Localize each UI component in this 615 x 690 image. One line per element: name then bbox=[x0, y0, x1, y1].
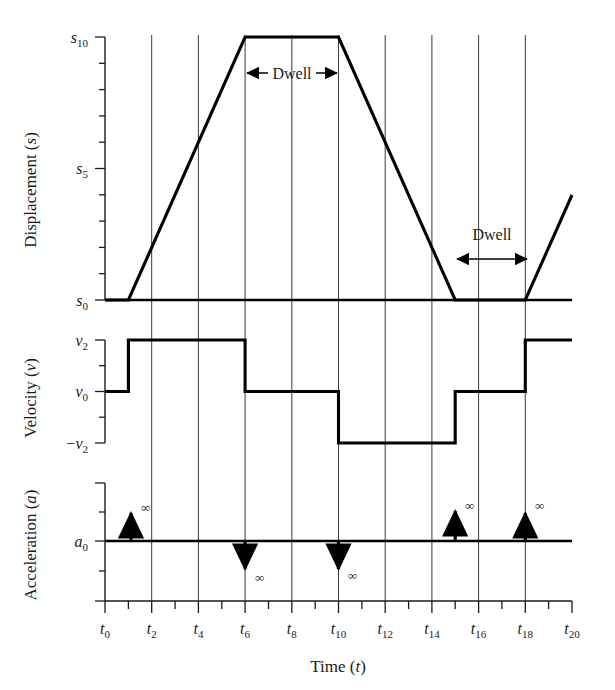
infinity-label-t6: ∞ bbox=[255, 570, 264, 585]
dwell-top-label: Dwell bbox=[272, 65, 312, 82]
displacement-axis-title-text: Displacement ( bbox=[21, 144, 40, 248]
infinity-label-t10: ∞ bbox=[348, 568, 357, 583]
velocity-axis-title: Velocity (v) bbox=[21, 358, 40, 438]
infinity-label-t15: ∞ bbox=[465, 498, 474, 513]
time-axis-title: Time (t) bbox=[310, 657, 366, 676]
infinity-label-t18: ∞ bbox=[535, 498, 544, 513]
figure-background bbox=[0, 0, 615, 690]
acceleration-axis-title: Acceleration (a) bbox=[21, 490, 40, 601]
infinity-label-t1: ∞ bbox=[141, 500, 150, 515]
motion-diagram: Displacement (s) s10 s5 s0 bbox=[0, 0, 615, 690]
dwell-bottom-label: Dwell bbox=[472, 226, 512, 243]
displacement-axis-title: Displacement (s) bbox=[21, 132, 40, 248]
